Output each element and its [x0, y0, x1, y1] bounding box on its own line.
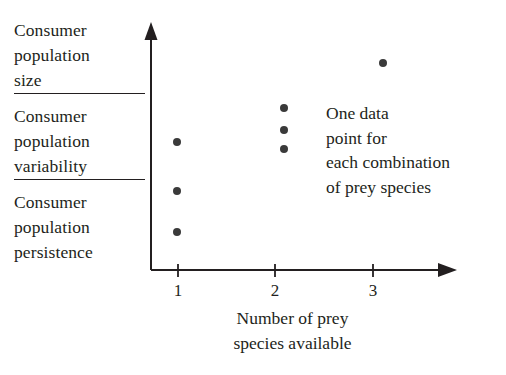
data-point: [173, 228, 181, 236]
x-tick-label-1: 1: [163, 281, 193, 300]
y-axis-arrowhead-icon: [145, 22, 158, 40]
x-axis-caption: Number of prey species available: [170, 306, 415, 355]
data-point: [280, 145, 288, 153]
data-point: [280, 126, 288, 134]
plot-annotation-text: One data point for each combination of p…: [326, 101, 504, 199]
x-tick-label-2: 2: [260, 281, 290, 300]
data-point: [173, 138, 181, 146]
data-point: [173, 187, 181, 195]
data-point: [379, 59, 387, 67]
x-tick-label-3: 3: [358, 281, 388, 300]
data-point: [280, 104, 288, 112]
x-axis-arrowhead-icon: [438, 263, 457, 277]
scatter-plot-figure: Consumer population size Consumer popula…: [0, 0, 506, 375]
